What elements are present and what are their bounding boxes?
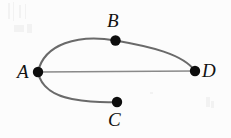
node-c	[112, 97, 122, 107]
node-d	[190, 66, 200, 76]
node-b	[110, 35, 120, 45]
node-label-b: B	[107, 11, 119, 30]
edge-group	[38, 39, 195, 103]
node-label-d: D	[202, 61, 216, 80]
figure-root: A B C D	[0, 0, 231, 138]
edge-a-c	[38, 72, 117, 102]
node-label-a: A	[17, 62, 29, 81]
node-label-c: C	[108, 110, 121, 129]
node-a	[33, 67, 43, 77]
edge-a-d	[38, 71, 195, 72]
